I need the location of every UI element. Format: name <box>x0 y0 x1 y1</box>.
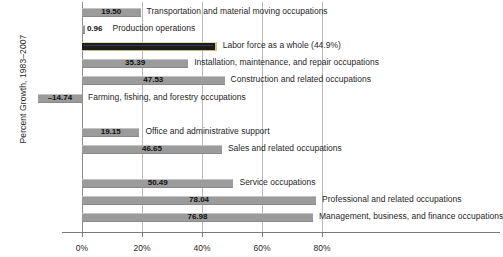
bar-row: 0.96Production operations <box>62 25 500 34</box>
bar-value-label: –14.74 <box>48 93 72 103</box>
bar-value-label: 35.39 <box>125 58 145 68</box>
bar-row: 76.98Management, business, and finance o… <box>62 213 500 222</box>
bar-row: 35.39Installation, maintenance, and repa… <box>62 59 500 68</box>
bar-category-label: Professional and related occupations <box>322 194 461 205</box>
bar-category-label: Sales and related occupations <box>228 143 342 154</box>
tick-mark-20% <box>142 233 143 237</box>
bar-row: 78.04Professional and related occupation… <box>62 196 500 205</box>
bar-value-label: 0.96 <box>87 24 103 34</box>
bar-category-label: Construction and related occupations <box>231 74 371 85</box>
bar-category-label: Transportation and material moving occup… <box>147 6 328 17</box>
bar-category-label: Installation, maintenance, and repair oc… <box>194 57 379 68</box>
tick-mark-60% <box>262 233 263 237</box>
x-tick-label: 0% <box>76 243 88 253</box>
x-tick-label: 40% <box>193 243 210 253</box>
x-tick-label: 80% <box>313 243 330 253</box>
plot-area: 0%20%40%60%80% 19.50Transportation and m… <box>62 2 500 233</box>
bar-row: 50.49Service occupations <box>62 179 500 188</box>
x-axis-line <box>62 232 500 233</box>
bar-row: –14.74Farming, fishing, and forestry occ… <box>62 94 500 103</box>
bar-category-label: Labor force as a whole (44.9%) <box>223 40 341 51</box>
bar-row: 46.65Sales and related occupations <box>62 145 500 154</box>
bar-row: 47.53Construction and related occupation… <box>62 76 500 85</box>
tick-mark-80% <box>322 233 323 237</box>
bar-value-label: 50.49 <box>148 178 168 188</box>
bar-value-label: 47.53 <box>143 75 163 85</box>
bar-value-label: 19.50 <box>101 7 121 17</box>
bar <box>82 25 85 34</box>
x-tick-label: 20% <box>133 243 150 253</box>
bar-category-label: Farming, fishing, and forestry occupatio… <box>88 92 246 103</box>
bar-row: Labor force as a whole (44.9%) <box>62 42 500 51</box>
x-tick-label: 60% <box>253 243 270 253</box>
bar-category-label: Production operations <box>112 23 195 34</box>
bar-value-label: 46.65 <box>142 144 162 154</box>
bar-value-label: 78.04 <box>189 195 209 205</box>
bar-category-label: Office and administrative support <box>145 126 269 137</box>
bar-highlight <box>82 42 217 51</box>
bar-category-label: Management, business, and finance occupa… <box>319 211 503 222</box>
bar-value-label: 19.15 <box>101 127 121 137</box>
bar-row: 19.50Transportation and material moving … <box>62 8 500 17</box>
bar-row: 19.15Office and administrative support <box>62 128 500 137</box>
y-axis-title: Percent Growth, 1983–2007 <box>18 4 28 174</box>
tick-mark-0% <box>82 233 83 237</box>
bar-value-label: 76.98 <box>187 212 207 222</box>
bar-category-label: Service occupations <box>239 177 315 188</box>
tick-mark-40% <box>202 233 203 237</box>
